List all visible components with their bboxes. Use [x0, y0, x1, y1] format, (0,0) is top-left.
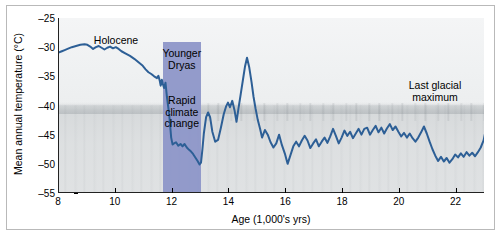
y-tick-label: –45	[21, 129, 55, 140]
x-tick-label: 16	[270, 196, 300, 207]
y-tick-label: –25	[21, 13, 55, 24]
x-tick-label: 20	[384, 196, 414, 207]
x-tick-label: 12	[157, 196, 187, 207]
x-tick-label: 14	[213, 196, 243, 207]
x-tick-label: 8	[43, 196, 73, 207]
x-tick-mark	[115, 188, 116, 193]
y-tick-label: –50	[21, 158, 55, 169]
x-tick-mark	[456, 188, 457, 193]
x-tick-mark	[172, 188, 173, 193]
annotation-younger-dryas: Younger Dryas	[162, 48, 202, 71]
y-tick-label: –30	[21, 42, 55, 53]
y-tick-label: –40	[21, 100, 55, 111]
y-tick-label: –35	[21, 71, 55, 82]
x-tick-label: 10	[100, 196, 130, 207]
annotation-rapid-climate-change: Rapid climate change	[162, 95, 202, 130]
plot-area: Holocene Younger Dryas Rapid climate cha…	[58, 18, 484, 193]
x-tick-label: 22	[441, 196, 471, 207]
x-tick-mark	[228, 188, 229, 193]
x-axis-title: Age (1,000's yrs)	[58, 213, 484, 225]
x-tick-mark	[285, 188, 286, 193]
y-tick-mark	[74, 193, 78, 194]
x-tick-mark	[399, 188, 400, 193]
annotation-last-glacial-maximum: Last glacial maximum	[389, 80, 481, 103]
x-tick-mark	[342, 188, 343, 193]
x-tick-label: 18	[327, 196, 357, 207]
figure-climate-chart: Mean annual temperature (°C) –25–30–35–4…	[0, 0, 503, 237]
annotation-holocene: Holocene	[71, 35, 161, 47]
